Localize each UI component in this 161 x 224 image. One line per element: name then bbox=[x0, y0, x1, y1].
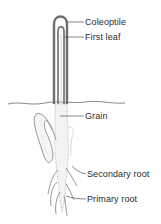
label-secondary-root: Secondary root bbox=[87, 169, 149, 179]
label-primary-root: Primary root bbox=[87, 194, 137, 204]
seedling-illustration bbox=[0, 0, 161, 224]
side-growth bbox=[68, 127, 73, 156]
grain-shape bbox=[34, 113, 56, 162]
label-coleoptile: Coleoptile bbox=[85, 17, 126, 27]
label-first-leaf: First leaf bbox=[85, 32, 121, 42]
label-grain: Grain bbox=[85, 111, 108, 121]
